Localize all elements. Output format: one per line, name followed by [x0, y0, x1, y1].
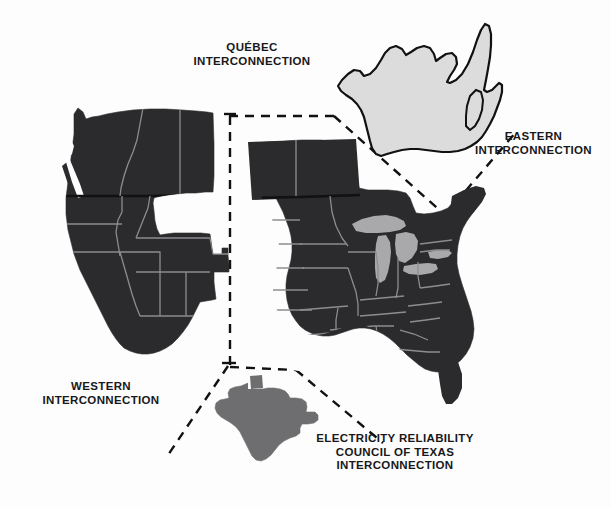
- region-western-interconnection[interactable]: [56, 108, 229, 354]
- ercot-panhandle: [250, 375, 263, 389]
- label-quebec-interconnection: QUÉBEC INTERCONNECTION: [152, 41, 352, 68]
- label-western-interconnection: WESTERN INTERCONNECTION: [6, 380, 196, 407]
- interconnections-map: QUÉBEC INTERCONNECTION EASTERN INTERCONN…: [0, 0, 611, 509]
- label-eastern-interconnection: EASTERN INTERCONNECTION: [456, 130, 611, 157]
- label-ercot-interconnection: ELECTRICITY RELIABILITY COUNCIL OF TEXAS…: [281, 432, 509, 473]
- region-eastern-interconnection[interactable]: [248, 139, 486, 404]
- eastern-gulf-cutout: [280, 344, 320, 372]
- western-interconnection-shape[interactable]: [66, 108, 229, 354]
- leader-line-ercot-top: [230, 367, 296, 370]
- eastern-canada-block: [248, 139, 360, 200]
